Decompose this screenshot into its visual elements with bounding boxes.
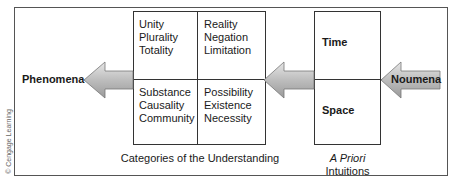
noumena-label: Noumena (391, 73, 441, 85)
middle-arrow-icon (264, 62, 314, 98)
phenomena-label: Phenomena (22, 73, 84, 85)
left-arrow-icon (84, 62, 133, 98)
arrows-layer (0, 0, 455, 184)
